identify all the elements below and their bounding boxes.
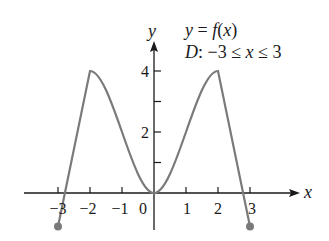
y-tick-label: 4 [141,63,149,80]
y-tick-label: 2 [141,124,149,141]
x-tick-label: 0 [139,200,147,217]
x-tick-label: −3 [49,200,66,217]
x-axis-label: x [303,182,312,202]
x-tick-label: −1 [111,200,128,217]
x-tick-label: 1 [183,200,191,217]
x-tick-label: 2 [214,200,222,217]
chart-title: y = f(x) [183,20,237,41]
left-endpoint-dot [54,223,62,231]
x-tick-label: −2 [79,200,96,217]
x-tick-label: 3 [248,200,256,217]
y-axis-label: y [146,21,156,41]
y-axis [150,41,161,230]
right-endpoint-dot [246,223,254,231]
domain-annotation: D: −3 ≤ x ≤ 3 [184,42,281,62]
function-graph: −3 −2 −1 0 1 2 3 4 2 x y y = f(x) D: −3 … [0,0,329,241]
